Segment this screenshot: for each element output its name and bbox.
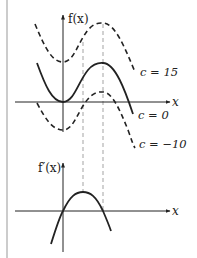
f-x-axis-label: x [172, 95, 179, 109]
derivative-family-figure: f(x) x c = 15 c = 0 c = −10 f′(x) x [0, 0, 197, 258]
label-c-0: c = 0 [138, 108, 169, 122]
label-c-minus-10: c = −10 [139, 137, 187, 151]
fprime-x-axis-label: x [172, 204, 179, 218]
labels-layer: f(x) x c = 15 c = 0 c = −10 f′(x) x [0, 0, 197, 258]
f-axis-label: f(x) [68, 12, 89, 26]
fprime-axis-label: f′(x) [38, 161, 61, 175]
label-c-15: c = 15 [140, 65, 178, 79]
